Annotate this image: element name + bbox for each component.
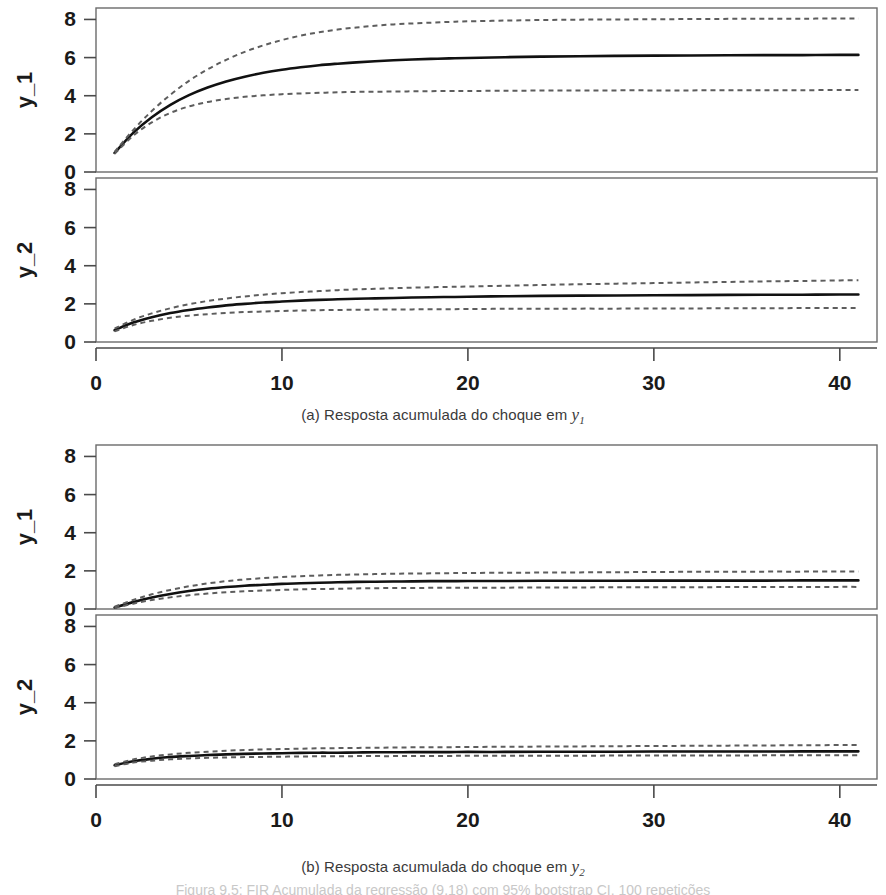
x-axis: 010203040 xyxy=(90,348,877,394)
x-tick-label: 40 xyxy=(828,371,851,394)
y-tick-label: 6 xyxy=(64,653,76,676)
caption-a-text: (a) Resposta acumulada do choque em xyxy=(301,406,571,423)
y-tick-label: 6 xyxy=(64,483,76,506)
y-tick-label: 8 xyxy=(64,7,76,30)
plot-panel-a-y1: 02468y_1 xyxy=(12,7,877,183)
y-tick-label: 2 xyxy=(64,122,76,145)
x-tick-label: 10 xyxy=(270,371,293,394)
chart-svg-b: 02468y_102468y_2010203040 xyxy=(0,437,886,837)
y-tick-label: 0 xyxy=(64,330,76,353)
plot-panel-b-y2: 02468y_2 xyxy=(12,614,877,790)
irf-ci-dashed-curve xyxy=(115,587,859,608)
figure-panel-a: 02468y_102468y_2010203040 xyxy=(0,0,886,435)
x-tick-label: 0 xyxy=(90,808,102,831)
axis-title-y2: y_2 xyxy=(12,242,37,279)
caption-b-text: (b) Resposta acumulada do choque em xyxy=(301,858,571,875)
x-tick-label: 0 xyxy=(90,371,102,394)
y-tick-label: 2 xyxy=(64,729,76,752)
x-tick-label: 30 xyxy=(642,808,665,831)
y-tick-label: 4 xyxy=(64,84,76,107)
irf-solid-curve xyxy=(115,295,859,331)
irf-ci-dashed-curve xyxy=(115,571,859,606)
x-tick-label: 40 xyxy=(828,808,851,831)
y-tick-label: 0 xyxy=(64,767,76,790)
y-tick-label: 6 xyxy=(64,216,76,239)
y-tick-label: 8 xyxy=(64,177,76,200)
caption-panel-b: (b) Resposta acumulada do choque em y2 xyxy=(0,857,886,878)
y-tick-label: 6 xyxy=(64,46,76,69)
plot-panel-b-y1: 02468y_1 xyxy=(12,444,877,620)
caption-panel-a: (a) Resposta acumulada do choque em y1 xyxy=(0,405,886,426)
plot-panel-a-y2: 02468y_2 xyxy=(12,177,877,353)
caption-b-subscript: 2 xyxy=(579,866,585,878)
irf-ci-dashed-curve xyxy=(115,755,859,766)
y-tick-label: 8 xyxy=(64,614,76,637)
caption-a-subscript: 1 xyxy=(579,414,585,426)
axis-title-y1: y_1 xyxy=(12,72,37,109)
y-tick-label: 4 xyxy=(64,521,76,544)
x-tick-label: 30 xyxy=(642,371,665,394)
y-tick-label: 8 xyxy=(64,444,76,467)
irf-ci-dashed-curve xyxy=(115,90,859,154)
y-tick-label: 4 xyxy=(64,254,76,277)
figure-note: Figura 9.5: FIR Acumulada da regressão (… xyxy=(0,882,886,895)
irf-ci-dashed-curve xyxy=(115,308,859,331)
figure-panel-b: 02468y_102468y_2010203040 xyxy=(0,437,886,895)
plot-frame xyxy=(96,445,877,609)
irf-solid-curve xyxy=(115,580,859,607)
irf-solid-curve xyxy=(115,55,859,153)
plot-frame xyxy=(96,178,877,342)
x-tick-label: 20 xyxy=(456,371,479,394)
irf-ci-dashed-curve xyxy=(115,18,859,152)
y-tick-label: 2 xyxy=(64,559,76,582)
x-tick-label: 10 xyxy=(270,808,293,831)
x-axis: 010203040 xyxy=(90,785,877,831)
y-tick-label: 2 xyxy=(64,292,76,315)
axis-title-y2: y_2 xyxy=(12,679,37,716)
y-tick-label: 4 xyxy=(64,691,76,714)
axis-title-y1: y_1 xyxy=(12,509,37,546)
chart-svg-a: 02468y_102468y_2010203040 xyxy=(0,0,886,400)
x-tick-label: 20 xyxy=(456,808,479,831)
